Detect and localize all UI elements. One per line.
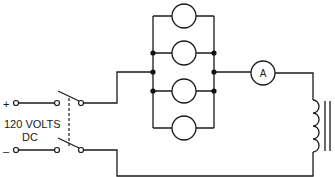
switch-bottom-fixed-contact <box>55 148 60 153</box>
lamp-4 <box>172 116 196 140</box>
junction-node <box>211 88 216 93</box>
lamp-1 <box>172 4 196 28</box>
ammeter-to-coil-wire <box>275 73 313 100</box>
ammeter-symbol: A <box>260 68 267 79</box>
negative-sign: – <box>3 145 10 157</box>
lamp-2 <box>172 41 196 65</box>
positive-terminal <box>14 101 19 106</box>
circuit-diagram: + 120 VOLTS DC – A <box>0 0 335 177</box>
junction-node <box>211 50 216 55</box>
return-wire <box>84 150 314 176</box>
negative-terminal <box>14 148 19 153</box>
top-feed-wire <box>84 72 154 103</box>
junction-node <box>150 88 155 93</box>
positive-sign: + <box>3 98 9 110</box>
voltage-label-line2: DC <box>22 131 38 143</box>
junction-node <box>150 69 155 74</box>
junction-node <box>150 50 155 55</box>
switch-top-pivot <box>79 101 84 106</box>
inductor-coil <box>313 100 319 152</box>
lamp-3 <box>172 79 196 103</box>
switch-top-fixed-contact <box>55 101 60 106</box>
switch-bottom-pivot <box>79 148 84 153</box>
voltage-label-line1: 120 VOLTS <box>4 118 61 130</box>
